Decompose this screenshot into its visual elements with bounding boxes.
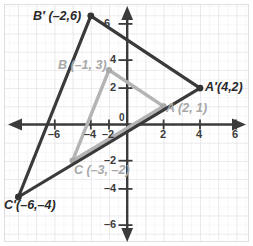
label-c: C (–3, –2) <box>74 164 130 177</box>
y-tick-label-pos4: 4 <box>110 54 116 65</box>
x-tick-label-neg2: –2 <box>102 129 114 140</box>
vertex-b-prime-dot <box>87 12 94 19</box>
origin-label: 0 <box>119 113 125 123</box>
x-tick-label-neg6: –6 <box>48 129 60 140</box>
x-tick-label-pos2: 2 <box>160 129 166 140</box>
vertex-a-prime-dot <box>197 85 204 92</box>
y-tick-label-pos2: 2 <box>110 82 116 93</box>
x-tick-label-pos4: 4 <box>196 129 202 140</box>
label-b: B (–1, 3) <box>58 59 107 72</box>
vertex-b-dot <box>106 67 112 73</box>
coordinate-plane-figure: –6 –4 –2 2 4 6 0 6 4 2 –2 –4 –6 B′ (–2,6… <box>0 0 253 246</box>
label-a-prime: A′(4,2) <box>205 81 243 94</box>
y-tick-label-pos6: 6 <box>104 18 110 29</box>
x-tick-label-neg4: –4 <box>84 129 96 140</box>
x-tick-label-pos6: 6 <box>232 129 238 140</box>
label-b-prime: B′ (–2,6) <box>33 10 81 23</box>
y-tick-label-neg4: –4 <box>104 183 116 194</box>
y-tick-label-neg6: –6 <box>104 219 116 230</box>
label-c-prime: C′(–6,–4) <box>4 199 56 212</box>
label-a: A (2, 1) <box>166 102 207 115</box>
